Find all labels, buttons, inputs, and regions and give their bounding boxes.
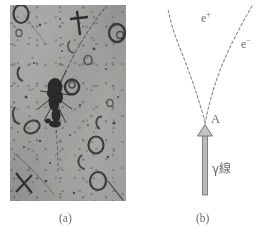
caption-panel-b: (b) <box>196 212 209 224</box>
figure-container: e+ e− A γ線 (a) (b) <box>0 0 263 239</box>
positron-label: e+ <box>201 10 211 24</box>
caption-panel-a: (a) <box>59 212 72 224</box>
electron-label: e− <box>241 36 251 50</box>
photo-fiducial-cross <box>70 11 88 35</box>
gamma-ray-label: γ線 <box>212 163 231 175</box>
gamma-arrow-shaft <box>203 133 208 195</box>
photo-speckles <box>23 18 119 194</box>
photo-particle-tracks <box>10 5 126 201</box>
positron-track-curve <box>168 9 205 122</box>
vertex-point-label: A <box>211 113 220 126</box>
panel-b-schematic: e+ e− A γ線 <box>133 0 263 205</box>
gamma-arrow-head <box>198 125 213 137</box>
electron-track-curve <box>205 6 252 124</box>
gamma-ray-arrow <box>198 125 213 196</box>
electron-charge-superscript: − <box>246 35 251 45</box>
photo-bubble-loops <box>13 5 125 190</box>
panel-a-photograph <box>10 5 126 201</box>
positron-charge-superscript: + <box>206 9 211 19</box>
schematic-drawing <box>133 0 263 205</box>
